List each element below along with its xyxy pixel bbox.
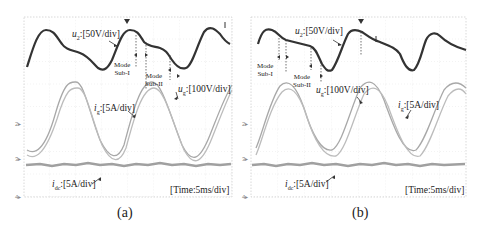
label-time-scale: [Time:5ms/div]: [170, 185, 229, 195]
label-idc: idc:[5A/div]: [285, 180, 329, 191]
label-mode-sub2: ModeSub-II: [293, 74, 311, 89]
label-mode-sub1: ModeSub-I: [114, 62, 130, 77]
caption-a: (a): [117, 205, 133, 221]
scope-panel-a: u2:[50V/div] ModeSub-I ModeSub-II ug:[10…: [0, 0, 240, 229]
label-idc: idc:[5A/div]: [52, 180, 96, 191]
channel-4-marker: 4▸: [15, 193, 21, 200]
label-ug: ug:[100V/div]: [178, 85, 231, 96]
channel-2-marker: 2▸: [15, 120, 21, 127]
channel-2-marker: 2▸: [242, 120, 248, 127]
label-u2: u2:[50V/div]: [295, 27, 343, 38]
label-mode-sub2: ModeSub-II: [145, 73, 163, 88]
channel-3-marker: 3▸: [242, 155, 248, 162]
label-ig: ig:[5A/div]: [94, 104, 135, 115]
scope-panel-b: u2:[50V/div] ModeSub-I ModeSub-II ug:[10…: [240, 0, 483, 229]
label-ug: ug:[100V/div]: [316, 86, 369, 97]
label-mode-sub1: ModeSub-I: [257, 63, 273, 78]
label-u2: u2:[50V/div]: [72, 30, 120, 41]
caption-b: (b): [352, 205, 368, 221]
channel-4-marker: 4▸: [242, 193, 248, 200]
channel-3-marker: 3▸: [15, 155, 21, 162]
label-time-scale: [Time:5ms/div]: [405, 185, 464, 195]
label-ig: ig:[5A/div]: [398, 101, 439, 112]
